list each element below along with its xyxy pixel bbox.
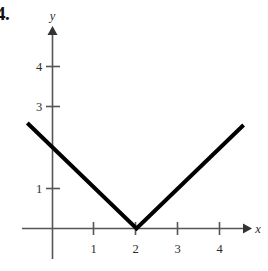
graph-plot: 4 3 1 1 2 3 4 y x bbox=[0, 0, 268, 271]
x-tick-label-2: 2 bbox=[132, 242, 138, 256]
figure-root: 4. 4 3 1 1 2 bbox=[0, 0, 268, 271]
x-tick-label-1: 1 bbox=[90, 242, 96, 256]
y-tick-label-4: 4 bbox=[36, 60, 43, 74]
y-tick-label-3: 3 bbox=[36, 100, 42, 114]
x-axis-arrow-icon bbox=[243, 224, 252, 234]
axes-group bbox=[22, 26, 252, 259]
y-axis-arrow-icon bbox=[48, 26, 58, 35]
x-tick-label-4: 4 bbox=[216, 242, 223, 256]
x-axis-label: x bbox=[254, 222, 261, 236]
y-axis-label: y bbox=[48, 9, 56, 23]
y-tick-label-1: 1 bbox=[36, 182, 42, 196]
x-tick-label-3: 3 bbox=[174, 242, 180, 256]
curve-absolute-value bbox=[27, 123, 243, 229]
